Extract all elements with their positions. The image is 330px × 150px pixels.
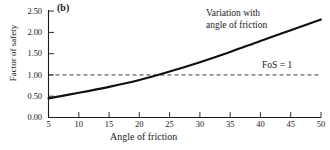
x-tick-label-45: 45	[281, 119, 301, 129]
x-tick-label-30: 30	[190, 119, 210, 129]
x-tick-label-50: 50	[311, 119, 330, 129]
x-axis-ticks	[49, 112, 322, 118]
x-tick-label-20: 20	[129, 119, 149, 129]
x-tick-label-15: 15	[99, 119, 119, 129]
y-tick-label-2-00: 2.00	[14, 27, 42, 37]
y-tick-label-2-50: 2.50	[14, 6, 42, 16]
x-tick-label-5: 5	[39, 119, 59, 129]
x-tick-label-35: 35	[220, 119, 240, 129]
figure-panel-b: 2.50 2.00 1.50 1.00 0.50 0.00 5 10 15 20…	[0, 0, 330, 150]
y-tick-label-1-50: 1.50	[14, 48, 42, 58]
series-annotation-line-2: angle of friction	[206, 19, 267, 31]
y-tick-label-0-50: 0.50	[14, 91, 42, 101]
y-tick-label-1-00: 1.00	[14, 70, 42, 80]
y-axis-label: Factor of safety	[8, 8, 18, 98]
x-tick-label-40: 40	[250, 119, 270, 129]
data-curve-factor-of-safety	[49, 20, 322, 99]
x-tick-label-10: 10	[69, 119, 89, 129]
series-annotation: Variation with angle of friction	[206, 7, 267, 31]
panel-label: (b)	[57, 2, 69, 13]
x-tick-label-25: 25	[160, 119, 180, 129]
x-axis-label: Angle of friction	[110, 131, 177, 142]
series-annotation-line-1: Variation with	[206, 7, 267, 19]
y-axis-ticks	[49, 11, 55, 117]
reference-line-annotation: FoS = 1	[262, 60, 292, 70]
